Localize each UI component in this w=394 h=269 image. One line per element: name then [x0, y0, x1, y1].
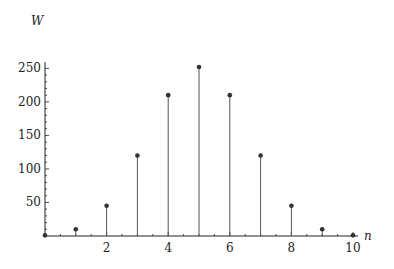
data-series [43, 65, 356, 238]
y-tick-label: 200 [18, 95, 41, 109]
data-point [74, 227, 79, 232]
data-point [104, 204, 109, 209]
x-tick-label: 6 [226, 241, 234, 255]
data-point [258, 153, 263, 158]
x-tick-label: 8 [288, 241, 296, 255]
x-axis-label: n [364, 229, 372, 243]
y-tick-label: 250 [18, 61, 41, 75]
x-tick-label: 4 [164, 241, 172, 255]
y-tick-label: 100 [18, 162, 41, 176]
axes: 24681050100150200250 [18, 61, 361, 255]
x-tick-label: 10 [345, 241, 360, 255]
data-point [351, 233, 356, 238]
data-point [135, 153, 140, 158]
data-point [43, 233, 48, 238]
data-point [197, 65, 202, 70]
stem-plot: 24681050100150200250 W n [0, 0, 394, 269]
data-point [166, 93, 171, 98]
data-point [228, 93, 233, 98]
y-axis-label: W [31, 14, 45, 28]
data-point [289, 204, 294, 209]
y-tick-label: 50 [26, 195, 41, 209]
x-tick-label: 2 [103, 241, 111, 255]
y-tick-label: 150 [18, 128, 41, 142]
data-point [320, 227, 325, 232]
